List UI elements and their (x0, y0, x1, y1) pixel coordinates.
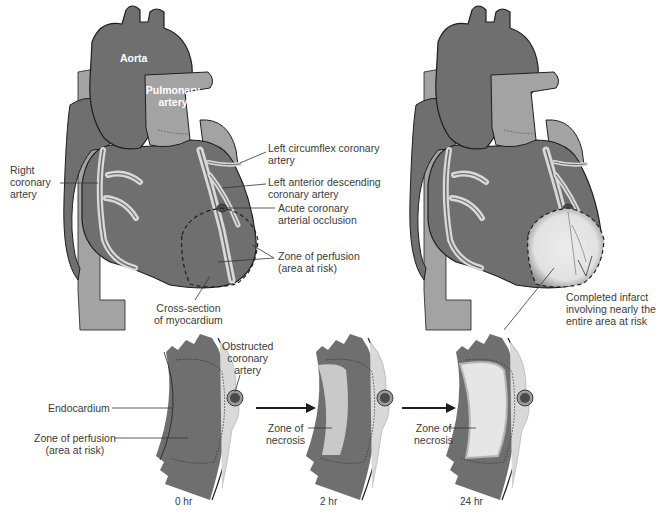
mi-progression-diagram: Aorta Pulmonary artery Right coronary ar… (0, 0, 668, 516)
label-completed-infarct: Completed infarct involving nearly the e… (566, 291, 656, 327)
label-24hr-necrosis-line1: Zone of (414, 422, 453, 434)
label-right-coronary-artery: Right coronary artery (10, 164, 51, 200)
label-cross-section: Cross-section of myocardium (154, 302, 223, 326)
label-pulmonary-line1: Pulmonary (145, 84, 201, 96)
label-time-0hr: 0 hr (175, 496, 192, 508)
label-infarct-line2: involving nearly the (566, 303, 656, 315)
label-zone-of-perfusion: Zone of perfusion (area at risk) (278, 250, 360, 274)
label-infarct-line3: entire area at risk (566, 315, 656, 327)
label-time-2hr: 2 hr (320, 496, 337, 508)
label-cs-perfusion-line1: Zone of perfusion (34, 432, 116, 444)
label-occlusion-line2: arterial occlusion (278, 214, 357, 226)
label-infarct-line1: Completed infarct (566, 291, 656, 303)
label-perfusion-line1: Zone of perfusion (278, 250, 360, 262)
label-lcx-line1: Left circumflex coronary (268, 142, 379, 154)
label-aorta: Aorta (120, 52, 147, 64)
label-pulmonary-line2: artery (145, 96, 201, 108)
label-lad-line2: coronary artery (268, 188, 381, 200)
label-obstructed-line1: Obstructed (222, 340, 273, 352)
label-obstructed-line2: coronary (222, 352, 273, 364)
label-24hr-zone-of-necrosis: Zone of necrosis (414, 422, 453, 446)
label-lad: Left anterior descending coronary artery (268, 176, 381, 200)
label-obstructed-artery: Obstructed coronary artery (222, 340, 273, 376)
label-endocardium: Endocardium (48, 402, 110, 414)
right-heart-illustration (410, 6, 604, 330)
label-lad-line1: Left anterior descending (268, 176, 381, 188)
label-occlusion-line1: Acute coronary (278, 202, 357, 214)
label-rca-line3: artery (10, 188, 51, 200)
label-cs-zone-of-perfusion: Zone of perfusion (area at risk) (34, 432, 116, 456)
cross-sections (112, 334, 533, 500)
label-cross-section-line1: Cross-section (154, 302, 223, 314)
label-lcx-line2: artery (268, 154, 379, 166)
label-2hr-zone-of-necrosis: Zone of necrosis (266, 422, 305, 446)
label-2hr-necrosis-line1: Zone of (266, 422, 305, 434)
label-cross-section-line2: of myocardium (154, 314, 223, 326)
label-cs-perfusion-line2: (area at risk) (34, 444, 116, 456)
label-left-circumflex: Left circumflex coronary artery (268, 142, 379, 166)
label-24hr-necrosis-line2: necrosis (414, 434, 453, 446)
label-acute-occlusion: Acute coronary arterial occlusion (278, 202, 357, 226)
label-perfusion-line2: (area at risk) (278, 262, 360, 274)
label-rca-line2: coronary (10, 176, 51, 188)
left-heart-illustration (60, 6, 275, 330)
label-rca-line1: Right (10, 164, 51, 176)
label-obstructed-line3: artery (222, 364, 273, 376)
label-2hr-necrosis-line2: necrosis (266, 434, 305, 446)
label-pulmonary-artery: Pulmonary artery (145, 84, 201, 108)
label-time-24hr: 24 hr (460, 496, 483, 508)
